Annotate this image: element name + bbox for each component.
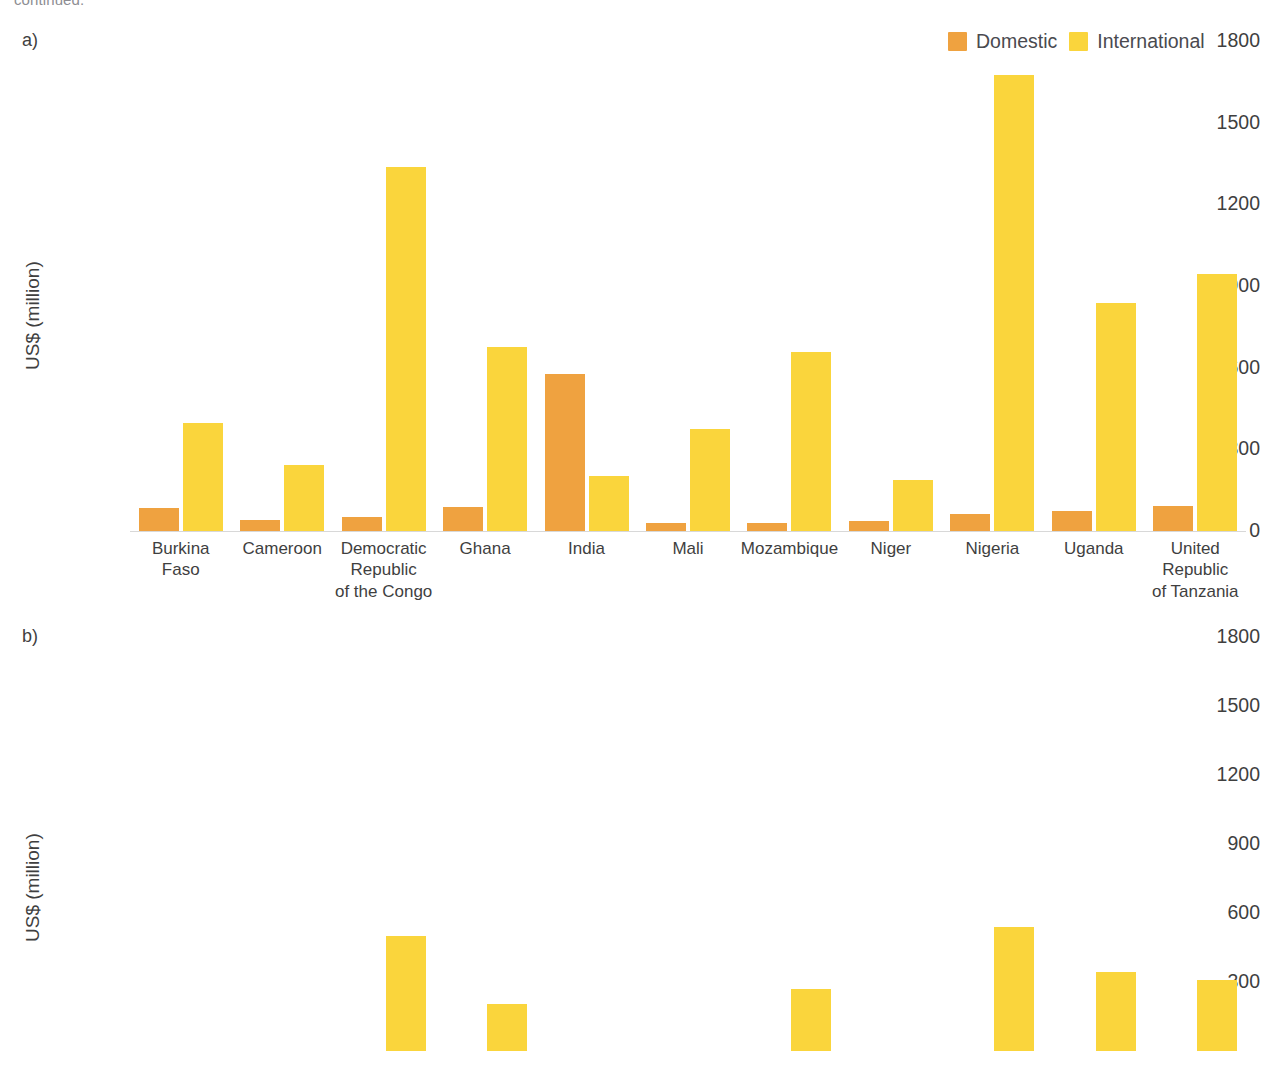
bar-group [1043, 41, 1144, 531]
plot-area-a [130, 41, 1246, 531]
bar-international[interactable] [791, 989, 831, 1051]
bar-domestic[interactable] [1153, 506, 1193, 531]
bar-group [739, 637, 840, 1051]
panel-letter-b: b) [22, 626, 38, 647]
bar-international[interactable] [589, 476, 629, 531]
bar-domestic[interactable] [342, 517, 382, 531]
bar-group [840, 41, 941, 531]
bar-group [231, 41, 332, 531]
bar-group [434, 637, 535, 1051]
bar-international[interactable] [994, 75, 1034, 531]
bar-group [231, 637, 332, 1051]
bar-group [942, 41, 1043, 531]
bar-group [333, 637, 434, 1051]
bar-group [739, 41, 840, 531]
bar-group [536, 637, 637, 1051]
bar-group [1145, 41, 1246, 531]
bar-group [130, 41, 231, 531]
x-axis-category-label: Cameroon [231, 538, 332, 602]
bar-group [1145, 637, 1246, 1051]
bar-international[interactable] [791, 352, 831, 531]
x-axis-line-a [130, 531, 1246, 532]
bar-group [637, 41, 738, 531]
x-axis-category-label: Niger [840, 538, 941, 602]
bar-domestic[interactable] [139, 508, 179, 531]
bar-international[interactable] [386, 167, 426, 531]
x-axis-category-label: Mozambique [739, 538, 840, 602]
panel-letter-a: a) [22, 30, 38, 51]
plot-area-b [130, 637, 1246, 1051]
bar-group [840, 637, 941, 1051]
bar-domestic[interactable] [1052, 511, 1092, 531]
bar-group [536, 41, 637, 531]
chart-panel-b: b) US$ (million) 180015001200900600300 [0, 612, 1268, 1074]
bar-group [434, 41, 535, 531]
x-axis-category-label: Ghana [434, 538, 535, 602]
bar-domestic[interactable] [646, 523, 686, 531]
y-axis-title-b: US$ (million) [22, 833, 44, 942]
bar-international[interactable] [690, 429, 730, 531]
x-axis-category-label: Mali [637, 538, 738, 602]
bar-domestic[interactable] [747, 523, 787, 531]
x-axis-category-label: United Republic of Tanzania [1145, 538, 1246, 602]
x-axis-category-label: Democratic Republic of the Congo [333, 538, 434, 602]
bar-international[interactable] [284, 465, 324, 531]
bar-international[interactable] [1197, 980, 1237, 1051]
x-axis-category-label: India [536, 538, 637, 602]
bar-domestic[interactable] [545, 374, 585, 531]
bar-international[interactable] [183, 423, 223, 531]
x-axis-category-label: Nigeria [942, 538, 1043, 602]
bar-domestic[interactable] [240, 520, 280, 531]
bar-group [637, 637, 738, 1051]
x-axis-category-label: Burkina Faso [130, 538, 231, 602]
bar-domestic[interactable] [950, 514, 990, 531]
bar-international[interactable] [1197, 274, 1237, 531]
bar-group [1043, 637, 1144, 1051]
x-axis-labels-a: Burkina FasoCameroonDemocratic Republic … [130, 538, 1246, 602]
bar-international[interactable] [1096, 972, 1136, 1051]
bar-international[interactable] [893, 480, 933, 531]
x-axis-category-label: Uganda [1043, 538, 1144, 602]
bar-group [333, 41, 434, 531]
bar-domestic[interactable] [443, 507, 483, 531]
bar-group [942, 637, 1043, 1051]
bar-international[interactable] [994, 927, 1034, 1051]
bar-international[interactable] [386, 936, 426, 1051]
y-axis-title-a: US$ (million) [22, 261, 44, 370]
bar-international[interactable] [487, 347, 527, 531]
bar-international[interactable] [487, 1004, 527, 1051]
bar-group [130, 637, 231, 1051]
bar-domestic[interactable] [849, 521, 889, 531]
bar-international[interactable] [1096, 303, 1136, 531]
chart-panel-a: a) US$ (million) 1800150012009006003000 [0, 0, 1268, 612]
